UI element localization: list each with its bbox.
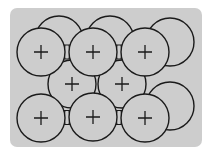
metal-lattice-diagram [0,0,212,156]
